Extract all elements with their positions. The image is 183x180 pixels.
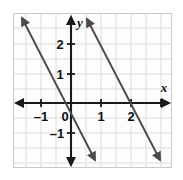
x-label-neg-one: –1 [34, 109, 48, 124]
origin-label: 0 [61, 109, 68, 124]
coordinate-graph-figure: –1 1 2 0 2 1 –1 x y [0, 0, 183, 180]
x-label-one: 1 [97, 109, 104, 124]
y-axis-label: y [75, 15, 83, 30]
plot-area-grid [14, 14, 172, 168]
y-label-one: 1 [56, 67, 63, 82]
y-label-two: 2 [56, 37, 63, 52]
x-label-two: 2 [127, 109, 134, 124]
x-axis-label: x [160, 80, 168, 95]
coordinate-plane-svg: –1 1 2 0 2 1 –1 x y [0, 0, 183, 180]
y-label-neg-one: –1 [50, 126, 64, 141]
plot-border [14, 14, 172, 168]
